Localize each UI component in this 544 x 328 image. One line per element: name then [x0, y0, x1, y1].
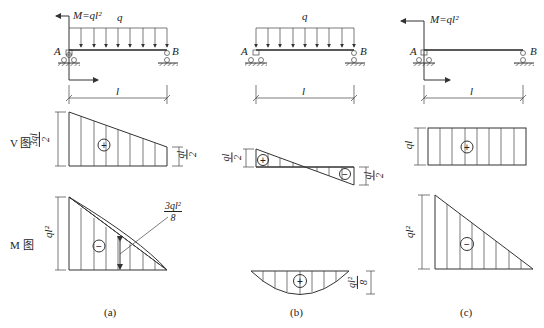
- shear-left-value: ql 2: [220, 153, 243, 163]
- moment-label: M=ql²: [73, 9, 101, 21]
- panel-c-moment-diagram: −: [418, 195, 533, 269]
- panel-c-shear-diagram: +: [414, 128, 526, 165]
- support-b-label: B: [530, 45, 537, 57]
- panel-b-shear-diagram: + −: [243, 149, 369, 185]
- span-dimension: [421, 85, 526, 104]
- distributed-load-icon: [69, 28, 167, 47]
- svg-text:−: −: [96, 241, 102, 252]
- moment-value: ql² 8: [346, 276, 369, 289]
- shear-right-value: ql 2: [175, 150, 198, 160]
- span-label: l: [116, 85, 119, 97]
- load-label: q: [117, 11, 123, 23]
- end-moment-arrow-icon: [56, 16, 98, 80]
- svg-text:+: +: [101, 140, 107, 151]
- support-a-label: A: [241, 45, 248, 57]
- caption-c: (c): [460, 306, 472, 318]
- moment-value: ql²: [403, 226, 415, 238]
- panel-a-shear-diagram: +: [55, 112, 183, 166]
- load-label: q: [302, 10, 308, 22]
- support-b-label: B: [172, 45, 179, 57]
- caption-b: (b): [290, 306, 303, 318]
- shear-right-value: ql 2: [362, 171, 385, 181]
- moment-left-value: ql²: [42, 226, 54, 238]
- shear-value: ql: [402, 141, 414, 150]
- panel-c-beam: [401, 21, 534, 104]
- shear-left-value: 3ql 2: [28, 132, 51, 147]
- svg-text:+: +: [297, 276, 303, 287]
- panel-a-moment-diagram: −: [55, 197, 168, 270]
- support-a-label: A: [410, 45, 417, 57]
- distributed-load-icon: [256, 28, 354, 47]
- moment-row-label: M 图: [10, 236, 34, 252]
- svg-text:+: +: [260, 155, 266, 166]
- support-a-label: A: [54, 45, 61, 57]
- moment-label: M=ql²: [430, 13, 458, 25]
- support-b-label: B: [360, 45, 367, 57]
- span-label: l: [470, 85, 473, 97]
- caption-a: (a): [104, 306, 116, 318]
- span-label: l: [302, 85, 305, 97]
- svg-text:−: −: [464, 239, 470, 250]
- svg-text:+: +: [464, 142, 470, 153]
- pin-support-icon: [245, 50, 267, 66]
- svg-text:−: −: [342, 169, 348, 180]
- diagram-canvas: + −: [0, 0, 544, 328]
- moment-annotation: 3ql² 8: [164, 200, 182, 223]
